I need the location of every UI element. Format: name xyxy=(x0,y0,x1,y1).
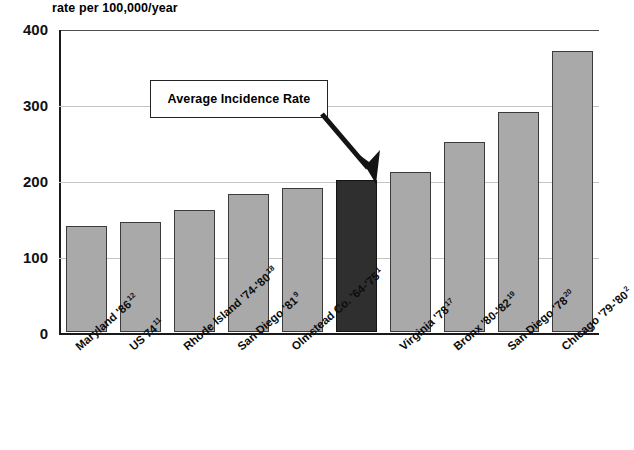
bar xyxy=(552,51,593,332)
bar xyxy=(390,172,431,332)
y-tick-400: 400 xyxy=(0,21,48,38)
annotation-label: Average Incidence Rate xyxy=(168,92,311,106)
plot-area xyxy=(59,30,599,334)
y-tick-0: 0 xyxy=(0,325,48,342)
y-axis-title: rate per 100,000/year xyxy=(52,1,178,15)
bar xyxy=(174,210,215,332)
plot-frame-top xyxy=(59,30,599,31)
annotation-box: Average Incidence Rate xyxy=(150,80,328,118)
gridline-300 xyxy=(59,106,599,107)
y-tick-100: 100 xyxy=(0,249,48,266)
y-tick-300: 300 xyxy=(0,97,48,114)
y-tick-200: 200 xyxy=(0,173,48,190)
